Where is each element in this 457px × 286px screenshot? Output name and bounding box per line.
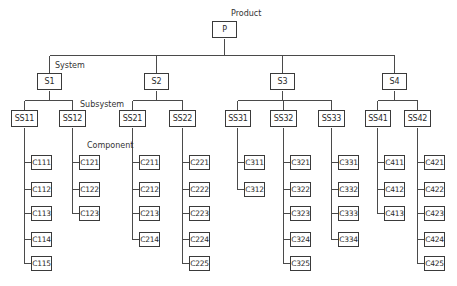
component-label: C421 <box>425 158 443 167</box>
component-node-c424: C424 <box>424 232 445 247</box>
component-label: C214 <box>140 235 158 244</box>
component-node-c224: C224 <box>189 232 210 247</box>
component-node-c115: C115 <box>31 256 52 271</box>
system-label: S2 <box>152 77 162 86</box>
component-label: C423 <box>425 209 443 218</box>
component-label: C325 <box>291 259 309 268</box>
component-label: C224 <box>190 235 208 244</box>
subsystem-node-ss12: SS12 <box>59 110 86 127</box>
component-label: C413 <box>385 209 403 218</box>
component-label: C113 <box>32 209 50 218</box>
component-label: C111 <box>32 158 50 167</box>
component-label: C221 <box>190 158 208 167</box>
component-node-c113: C113 <box>31 206 52 221</box>
component-node-c332: C332 <box>338 182 359 197</box>
system-node-s3: S3 <box>270 73 295 90</box>
system-label: S1 <box>45 77 55 86</box>
component-label: C323 <box>291 209 309 218</box>
component-node-c112: C112 <box>31 182 52 197</box>
subsystem-label: SS33 <box>322 114 342 123</box>
component-node-c323: C323 <box>290 206 311 221</box>
component-node-c422: C422 <box>424 182 445 197</box>
component-label: C123 <box>80 209 98 218</box>
component-label: C422 <box>425 185 443 194</box>
component-node-c324: C324 <box>290 232 311 247</box>
component-label: C115 <box>32 259 50 268</box>
subsystem-node-ss41: SS41 <box>365 110 391 127</box>
subsystem-label: SS12 <box>63 114 83 123</box>
component-label: C334 <box>339 235 357 244</box>
component-label: C331 <box>339 158 357 167</box>
subsystem-node-ss11: SS11 <box>11 110 38 127</box>
system-node-s1: S1 <box>37 73 62 90</box>
subsystem-node-ss42: SS42 <box>404 110 431 127</box>
component-node-c423: C423 <box>424 206 445 221</box>
component-label: C424 <box>425 235 443 244</box>
component-node-c322: C322 <box>290 182 311 197</box>
component-node-c311: C311 <box>244 155 265 170</box>
system-label: S3 <box>278 77 288 86</box>
subsystem-label: SS41 <box>368 114 388 123</box>
component-node-c222: C222 <box>189 182 210 197</box>
component-label: C312 <box>245 185 263 194</box>
component-label: C122 <box>80 185 98 194</box>
component-node-c111: C111 <box>31 155 52 170</box>
component-label: C121 <box>80 158 98 167</box>
component-node-c223: C223 <box>189 206 210 221</box>
component-node-c214: C214 <box>139 232 160 247</box>
product-node: P <box>212 21 237 38</box>
product-node-label: P <box>222 25 227 34</box>
component-label: C223 <box>190 209 208 218</box>
component-node-c114: C114 <box>31 232 52 247</box>
subsystem-node-ss31: SS31 <box>225 110 251 127</box>
component-label: C225 <box>190 259 208 268</box>
component-node-c325: C325 <box>290 256 311 271</box>
component-label: C321 <box>291 158 309 167</box>
subsystem-label: SS22 <box>173 114 193 123</box>
component-node-c312: C312 <box>244 182 265 197</box>
level-label-system: System <box>55 61 85 70</box>
component-label: C211 <box>140 158 158 167</box>
component-node-c212: C212 <box>139 182 160 197</box>
component-node-c425: C425 <box>424 256 445 271</box>
component-node-c413: C413 <box>384 206 405 221</box>
component-node-c211: C211 <box>139 155 160 170</box>
system-node-s2: S2 <box>144 73 169 90</box>
component-label: C412 <box>385 185 403 194</box>
component-label: C333 <box>339 209 357 218</box>
component-node-c333: C333 <box>338 206 359 221</box>
component-node-c225: C225 <box>189 256 210 271</box>
component-label: C112 <box>32 185 50 194</box>
component-label: C411 <box>385 158 403 167</box>
component-node-c122: C122 <box>79 182 100 197</box>
component-label: C222 <box>190 185 208 194</box>
system-label: S4 <box>390 77 400 86</box>
component-node-c321: C321 <box>290 155 311 170</box>
subsystem-label: SS31 <box>228 114 248 123</box>
level-label-subsystem: Subsystem <box>80 100 124 109</box>
product-breakdown-tree: Product System Subsystem Component P S1 … <box>0 0 457 286</box>
connector-lines <box>0 0 457 286</box>
level-label-product: Product <box>231 9 261 18</box>
component-label: C213 <box>140 209 158 218</box>
component-node-c334: C334 <box>338 232 359 247</box>
component-node-c421: C421 <box>424 155 445 170</box>
subsystem-node-ss22: SS22 <box>169 110 196 127</box>
component-label: C114 <box>32 235 50 244</box>
component-label: C212 <box>140 185 158 194</box>
component-node-c121: C121 <box>79 155 100 170</box>
system-node-s4: S4 <box>382 73 407 90</box>
subsystem-node-ss32: SS32 <box>270 110 297 127</box>
subsystem-label: SS21 <box>123 114 143 123</box>
component-label: C332 <box>339 185 357 194</box>
component-label: C322 <box>291 185 309 194</box>
component-label: C425 <box>425 259 443 268</box>
subsystem-label: SS11 <box>15 114 35 123</box>
subsystem-node-ss33: SS33 <box>318 110 345 127</box>
component-node-c123: C123 <box>79 206 100 221</box>
component-node-c331: C331 <box>338 155 359 170</box>
subsystem-node-ss21: SS21 <box>119 110 146 127</box>
component-node-c213: C213 <box>139 206 160 221</box>
component-label: C311 <box>245 158 263 167</box>
component-label: C324 <box>291 235 309 244</box>
